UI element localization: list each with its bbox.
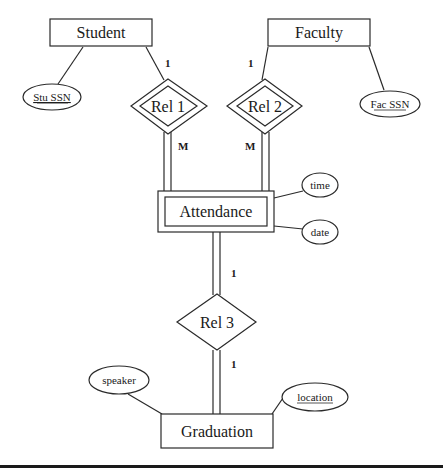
entity-faculty[interactable]: Faculty xyxy=(268,19,370,46)
line-student-rel1 xyxy=(146,47,164,80)
relationship-label: Rel 2 xyxy=(248,98,282,115)
line-faculty-rel2 xyxy=(262,47,268,80)
cardinality-rel1-attendance: M xyxy=(178,140,189,152)
entity-attendance[interactable]: Attendance xyxy=(158,191,274,232)
key-attribute-label: Stu SSN xyxy=(33,91,71,103)
entity-label: Graduation xyxy=(181,423,253,440)
er-diagram: Student Faculty Attendance Graduation Re… xyxy=(0,0,443,474)
cardinality-rel3-graduation: 1 xyxy=(231,358,237,370)
cardinality-student-rel1: 1 xyxy=(165,57,171,69)
relationship-label: Rel 1 xyxy=(151,98,185,115)
entity-graduation[interactable]: Graduation xyxy=(161,414,273,448)
attribute-fac-ssn[interactable]: Fac SSN xyxy=(360,91,420,117)
cardinality-attendance-rel3: 1 xyxy=(231,267,237,279)
attribute-time[interactable]: time xyxy=(302,173,338,197)
relationship-rel2[interactable]: Rel 2 xyxy=(227,79,302,134)
attribute-label: date xyxy=(311,226,329,238)
cardinality-rel2-attendance: M xyxy=(245,140,256,152)
attribute-date[interactable]: date xyxy=(302,220,338,244)
relationship-rel3[interactable]: Rel 3 xyxy=(177,294,256,350)
entity-label: Faculty xyxy=(295,24,343,42)
line-student-stussn xyxy=(58,47,83,84)
attribute-location[interactable]: location xyxy=(282,383,348,411)
key-attribute-label: location xyxy=(297,391,333,403)
entity-label: Attendance xyxy=(180,203,253,220)
cardinality-faculty-rel2: 1 xyxy=(248,57,254,69)
line-attendance-time xyxy=(274,191,303,198)
line-graduation-location xyxy=(272,398,283,414)
attribute-speaker[interactable]: speaker xyxy=(89,366,149,394)
relationship-rel1[interactable]: Rel 1 xyxy=(131,79,207,134)
bottom-rule xyxy=(0,465,443,468)
line-graduation-speaker xyxy=(128,394,162,414)
line-attendance-date xyxy=(274,226,303,229)
relationship-label: Rel 3 xyxy=(200,314,234,331)
key-attribute-label: Fac SSN xyxy=(371,98,410,110)
attribute-label: speaker xyxy=(102,374,136,386)
entity-label: Student xyxy=(77,24,126,41)
line-faculty-facssn xyxy=(369,47,384,90)
attribute-label: time xyxy=(310,179,330,191)
entity-student[interactable]: Student xyxy=(50,19,152,46)
attribute-stu-ssn[interactable]: Stu SSN xyxy=(23,84,81,110)
